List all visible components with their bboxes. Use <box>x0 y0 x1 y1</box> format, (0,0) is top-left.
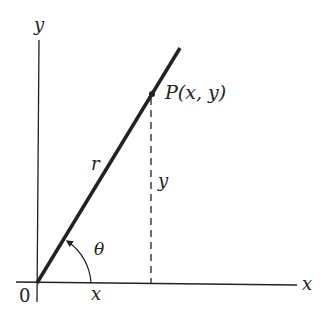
y-axis <box>37 40 39 302</box>
angle-theta-label: θ <box>94 241 104 258</box>
diagram-canvas <box>0 0 331 329</box>
vertical-y-label: y <box>158 172 168 190</box>
y-axis-label: y <box>34 16 44 34</box>
radius-line <box>37 48 180 283</box>
horizontal-x-label: x <box>91 285 101 303</box>
point-p <box>149 91 155 97</box>
radius-label: r <box>91 155 100 173</box>
x-axis <box>16 282 297 285</box>
polar-coordinates-diagram: y x 0 x P(x, y) r y θ <box>0 0 331 329</box>
origin-label: 0 <box>19 287 30 305</box>
x-axis-label: x <box>302 275 312 293</box>
point-label: P(x, y) <box>165 83 226 102</box>
angle-arc <box>67 241 91 283</box>
